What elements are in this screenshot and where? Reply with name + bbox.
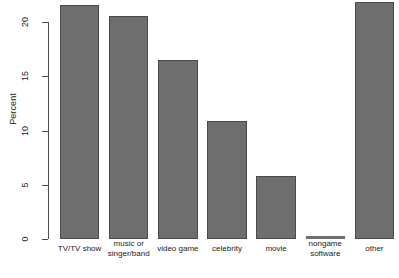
plot-area xyxy=(55,0,399,239)
x-axis-label: other xyxy=(344,244,399,254)
bar xyxy=(60,5,99,239)
bar xyxy=(109,16,148,240)
y-axis-tick-label: 5 xyxy=(20,172,30,198)
y-axis-tick-label: 15 xyxy=(20,63,30,89)
y-axis-tick xyxy=(42,22,48,23)
bar xyxy=(207,121,246,239)
bar xyxy=(158,60,197,239)
y-axis-tick-label: 10 xyxy=(20,118,30,144)
bar xyxy=(355,2,394,239)
y-axis-tick xyxy=(42,185,48,186)
y-axis-tick-label: 20 xyxy=(20,9,30,35)
y-axis-tick-label: 0 xyxy=(20,226,30,252)
y-axis-title: Percent xyxy=(8,79,18,139)
y-axis-line xyxy=(48,22,49,239)
y-axis-tick xyxy=(42,131,48,132)
bar-chart: Percent 05101520 TV/TV showmusic or sing… xyxy=(0,0,399,278)
y-axis-tick xyxy=(42,76,48,77)
y-axis-tick xyxy=(42,239,48,240)
bar xyxy=(256,176,295,239)
